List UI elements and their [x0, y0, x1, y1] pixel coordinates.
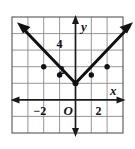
y-tick-label-4: 4 — [57, 37, 63, 51]
y-axis-label: y — [79, 19, 87, 34]
point-marker — [89, 72, 94, 77]
origin-label: O — [64, 103, 74, 118]
x-tick-label-neg2: −2 — [34, 104, 47, 118]
point-marker — [41, 64, 46, 69]
point-marker — [104, 64, 109, 69]
y-tick-label-2: 2 — [59, 63, 65, 77]
x-axis-label: x — [109, 83, 117, 98]
vertex-marker — [73, 80, 79, 86]
x-tick-label-2: 2 — [96, 104, 102, 118]
graph-figure: y x 4 2 −2 2 O — [0, 0, 135, 149]
coordinate-plane-svg: y x 4 2 −2 2 O — [0, 0, 135, 149]
